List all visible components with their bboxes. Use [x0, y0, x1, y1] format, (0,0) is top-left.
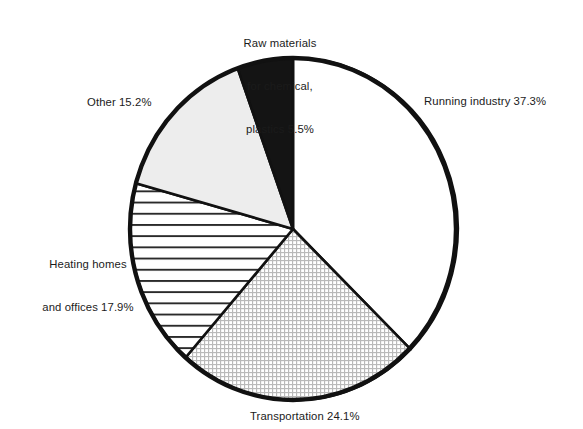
slice-label-heating-homes: Heating homes and offices 17.9%: [20, 229, 156, 343]
slice-label-raw-materials: Raw materials for chemical, plastics 5.5…: [204, 8, 356, 164]
slice-label-running-industry: Running industry 37.3%: [424, 94, 546, 108]
slice-label-heating-homes-line2: and offices 17.9%: [20, 300, 156, 314]
slice-label-raw-materials-line1: Raw materials: [204, 36, 356, 50]
slice-label-raw-materials-line3: plastics 5.5%: [204, 122, 356, 136]
slice-label-transportation: Transportation 24.1%: [250, 409, 360, 423]
slice-label-heating-homes-line1: Heating homes: [20, 257, 156, 271]
pie-chart-figure: Raw materials for chemical, plastics 5.5…: [0, 0, 583, 429]
slice-label-raw-materials-line2: for chemical,: [204, 79, 356, 93]
slice-label-other: Other 15.2%: [87, 95, 152, 109]
